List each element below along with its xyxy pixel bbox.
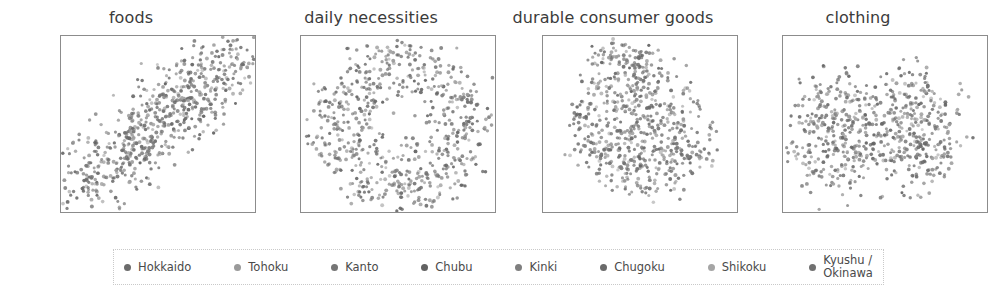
x-tick-mark xyxy=(705,212,706,213)
legend-item[interactable]: Tohoku xyxy=(234,261,288,274)
legend-marker-icon xyxy=(708,264,715,271)
plot-area: 20100− 10− 20− 20020 xyxy=(300,35,496,213)
x-tick-mark xyxy=(643,212,644,213)
legend-item[interactable]: Hokkaido xyxy=(124,261,191,274)
x-tick-mark xyxy=(401,212,402,213)
x-tick-mark xyxy=(223,212,224,213)
scatter-points xyxy=(61,36,255,212)
panel-title: durable consumer goods xyxy=(482,8,744,27)
legend-marker-icon xyxy=(421,264,428,271)
legend-label: Kinki xyxy=(529,261,557,274)
legend-item[interactable]: Shikoku xyxy=(708,261,767,274)
x-tick-mark xyxy=(888,212,889,213)
x-tick-mark xyxy=(580,212,581,213)
legend-item[interactable]: Kanto xyxy=(331,261,378,274)
panel-0: foods20100− 10− 20− 20020 xyxy=(0,0,262,240)
legend-marker-icon xyxy=(124,264,131,271)
scatter-points xyxy=(301,36,495,212)
legend-item[interactable]: Kyushu / Okinawa xyxy=(809,254,873,280)
plot-area: 20100− 10− 20− 20020 xyxy=(60,35,256,213)
panel-title: foods xyxy=(0,8,262,27)
panel-2: durable consumer goods20100− 10− 20− 200… xyxy=(482,0,744,240)
legend-label: Kanto xyxy=(345,261,378,274)
legend-label: Shikoku xyxy=(722,261,767,274)
x-tick-mark xyxy=(463,212,464,213)
panel-1: daily necessities20100− 10− 20− 20020 xyxy=(240,0,502,240)
legend-item[interactable]: Chubu xyxy=(421,261,472,274)
legend: HokkaidoTohokuKantoChubuKinkiChugokuShik… xyxy=(113,249,884,285)
legend-label: Chugoku xyxy=(614,261,665,274)
legend-label: Tohoku xyxy=(248,261,288,274)
legend-marker-icon xyxy=(331,264,338,271)
plot-area: 100− 10− 20− 20020 xyxy=(782,35,988,213)
x-tick-mark xyxy=(98,212,99,213)
panel-3: clothing100− 10− 20− 20020 xyxy=(722,0,994,240)
x-tick-mark xyxy=(822,212,823,213)
legend-label: Chubu xyxy=(435,261,472,274)
legend-item[interactable]: Kinki xyxy=(515,261,557,274)
scatter-points xyxy=(543,36,737,212)
panel-title: daily necessities xyxy=(240,8,502,27)
x-tick-mark xyxy=(161,212,162,213)
legend-marker-icon xyxy=(234,264,241,271)
legend-marker-icon xyxy=(600,264,607,271)
x-tick-mark xyxy=(954,212,955,213)
legend-item[interactable]: Chugoku xyxy=(600,261,665,274)
scatter-points xyxy=(783,36,987,212)
plot-area: 20100− 10− 20− 20020 xyxy=(542,35,738,213)
legend-marker-icon xyxy=(515,264,522,271)
x-tick-mark xyxy=(338,212,339,213)
panel-title: clothing xyxy=(722,8,994,27)
legend-label: Kyushu / Okinawa xyxy=(823,254,873,280)
legend-marker-icon xyxy=(809,264,816,271)
legend-label: Hokkaido xyxy=(138,261,191,274)
